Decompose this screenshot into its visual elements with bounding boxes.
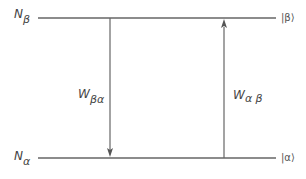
upper-population-label: Nβ bbox=[14, 8, 30, 20]
lower-ket-label: |α⟩ bbox=[281, 153, 295, 163]
rate-W: W bbox=[233, 88, 245, 102]
lower-population-label: Nα bbox=[14, 150, 30, 162]
downward-rate-label: Wβα bbox=[78, 88, 104, 100]
population-subscript: α bbox=[23, 155, 30, 168]
upper-ket-label: |β⟩ bbox=[281, 13, 295, 23]
population-N: N bbox=[14, 7, 23, 21]
population-subscript: β bbox=[23, 13, 30, 26]
population-N: N bbox=[14, 149, 23, 163]
rate-W: W bbox=[78, 87, 90, 101]
upward-rate-label: Wα β bbox=[233, 89, 263, 101]
up-arrowhead-icon bbox=[221, 19, 227, 28]
rate-subscript: βα bbox=[90, 93, 104, 106]
rate-subscript: α β bbox=[245, 92, 263, 105]
